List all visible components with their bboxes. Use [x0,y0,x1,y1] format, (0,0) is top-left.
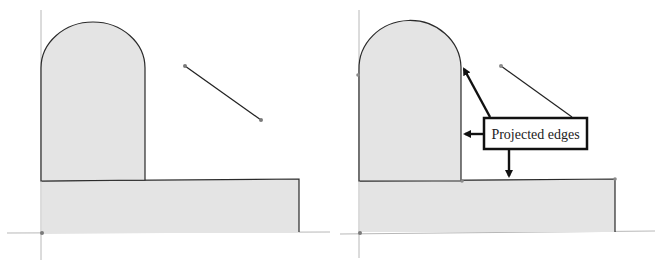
panel-before [7,10,330,260]
point [613,177,617,181]
base-rectangle [42,179,299,233]
point [259,118,263,122]
point [356,73,360,77]
panel-after: Projected edges [340,10,655,258]
origin-point [358,231,362,235]
line-segment [501,66,572,117]
line-segment [185,66,261,120]
origin-point [40,231,44,235]
point [460,179,464,183]
point [183,64,187,68]
base-rectangle [360,179,615,232]
callout-label: Projected edges [491,127,579,142]
diagram-canvas: Projected edges [0,0,657,264]
arch-profile [41,22,145,181]
point [499,64,503,68]
arch-profile [359,20,461,181]
callout-arrow-arc-edge [464,69,490,117]
